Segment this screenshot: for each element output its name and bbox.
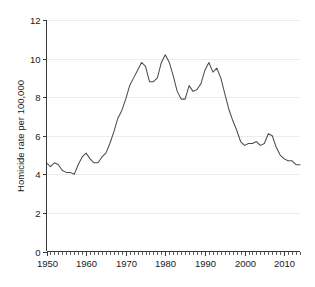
x-tick-label-2000: 2000	[235, 258, 256, 269]
x-tick-label-1970: 1970	[116, 258, 137, 269]
y-tick-label-6: 6	[35, 131, 40, 142]
y-tick-label-10: 10	[30, 54, 41, 65]
x-tick-label-1980: 1980	[155, 258, 176, 269]
x-tick-label-1950: 1950	[37, 258, 58, 269]
y-axis-ticks: 024681012	[30, 15, 47, 258]
line-chart: 024681012 Homicide rate per 100,000 1950…	[0, 0, 315, 287]
chart-canvas: 024681012 Homicide rate per 100,000 1950…	[0, 0, 315, 287]
x-tick-label-1990: 1990	[195, 258, 216, 269]
y-tick-label-4: 4	[35, 169, 40, 180]
series-line-homicide-rate	[47, 55, 301, 175]
plot-area	[47, 55, 301, 175]
y-tick-label-0: 0	[35, 247, 40, 258]
y-tick-label-8: 8	[35, 92, 40, 103]
y-tick-label-12: 12	[30, 15, 41, 26]
y-axis-title: Homicide rate per 100,000	[15, 80, 26, 192]
y-tick-label-2: 2	[35, 208, 40, 219]
gridlines	[47, 21, 301, 214]
x-tick-label-1960: 1960	[76, 258, 97, 269]
x-tick-label-2010: 2010	[274, 258, 295, 269]
y-axis: 024681012 Homicide rate per 100,000	[15, 15, 47, 258]
x-axis: 1950196019701980199020002010	[37, 252, 301, 270]
